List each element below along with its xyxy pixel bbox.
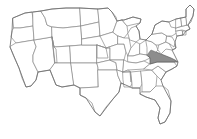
state-new-york[interactable] [152, 21, 178, 36]
state-montana[interactable] [41, 8, 81, 28]
state-arizona[interactable] [50, 63, 74, 87]
state-nevada[interactable] [33, 37, 55, 72]
us-states-map[interactable] [0, 0, 197, 139]
us-map-figure: Virginia [0, 0, 197, 139]
state-alabama[interactable] [131, 71, 142, 88]
state-washington[interactable] [13, 12, 33, 28]
state-wyoming[interactable] [52, 26, 82, 47]
state-new-mexico[interactable] [71, 63, 98, 88]
state-colorado[interactable] [70, 45, 97, 63]
